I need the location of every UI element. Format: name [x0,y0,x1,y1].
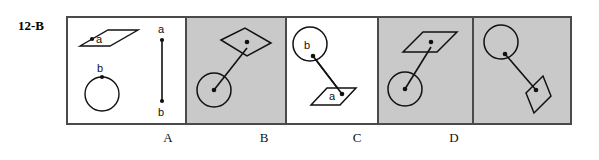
option-label-a: A [148,130,188,146]
option-b-parallelogram-label: a [329,90,336,102]
stimulus-parallelogram-label: a [96,33,103,45]
option-d-drawing [474,18,570,123]
option-b-parallelogram-dot [340,92,345,97]
question-figure-root: 12-B a b a b [0,0,599,160]
option-label-c: C [337,130,377,146]
option-panel-a[interactable] [187,18,285,123]
option-a-circle-dot [212,88,217,93]
stimulus-connector-dot-a [160,38,164,42]
stimulus-connector-dot-b [160,99,164,103]
stimulus-circle-label: b [97,62,103,74]
option-panel-b[interactable]: b a [287,18,377,123]
option-label-b: B [244,130,284,146]
option-c-drawing [379,18,472,123]
option-panel-d[interactable] [474,18,570,123]
option-d-parallelogram-dot [534,88,539,93]
stimulus-panel: a b a b [68,18,185,123]
option-d-connector [505,54,536,90]
option-b-circle-dot [311,54,316,59]
stimulus-drawing: a b a b [68,18,185,123]
option-c-connector [405,47,431,89]
question-number: 12-B [18,18,44,34]
option-d-circle-dot [503,52,508,57]
option-a-parallelogram-dot [245,40,250,45]
stimulus-connector-label-a: a [158,23,165,35]
stimulus-connector-label-b: b [158,106,164,118]
stimulus-circle-dot [100,75,104,79]
option-panel-c[interactable] [379,18,472,123]
option-c-parallelogram-dot [429,40,434,45]
option-a-drawing [187,18,285,123]
option-d-circle [484,25,518,59]
option-label-d: D [434,130,474,146]
stimulus-parallelogram-dot [90,37,94,41]
stimulus-circle [85,77,119,111]
option-b-circle-label: b [304,39,310,51]
stimulus-parallelogram [80,30,138,46]
option-c-circle-dot [403,87,408,92]
option-b-drawing: b a [287,18,377,123]
figure-frame: a b a b [66,16,572,125]
